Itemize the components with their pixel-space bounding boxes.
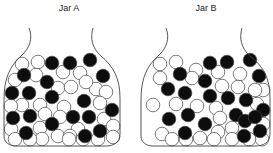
- jars-diagram: [0, 0, 273, 153]
- white-ball: [93, 96, 107, 110]
- black-ball: [63, 56, 77, 70]
- white-ball: [64, 80, 78, 94]
- black-ball: [5, 86, 19, 100]
- white-ball: [233, 67, 247, 81]
- black-ball: [237, 129, 251, 143]
- jar-a-balls: [4, 53, 120, 146]
- white-ball: [165, 132, 179, 146]
- black-ball: [198, 74, 212, 88]
- black-ball: [19, 126, 33, 140]
- white-ball: [31, 55, 45, 69]
- black-ball: [221, 91, 235, 105]
- black-ball: [22, 86, 36, 100]
- white-ball: [4, 99, 18, 113]
- black-ball: [248, 110, 262, 124]
- white-ball: [169, 97, 183, 111]
- jar-a: [4, 28, 120, 146]
- black-ball: [93, 124, 107, 138]
- white-ball: [215, 79, 229, 93]
- black-ball: [66, 110, 80, 124]
- black-ball: [178, 126, 192, 140]
- black-ball: [45, 56, 59, 70]
- white-ball: [146, 98, 160, 112]
- jar-b-balls: [146, 53, 270, 146]
- black-ball: [198, 117, 212, 131]
- black-ball: [161, 82, 175, 96]
- black-ball: [17, 68, 31, 82]
- black-ball: [178, 86, 192, 100]
- jar-b: [141, 28, 270, 146]
- black-ball: [203, 56, 217, 70]
- black-ball: [45, 117, 59, 131]
- white-ball: [35, 132, 49, 146]
- black-ball: [78, 129, 92, 143]
- white-ball: [225, 132, 239, 146]
- white-ball: [193, 131, 207, 145]
- white-ball: [62, 132, 76, 146]
- white-ball: [169, 55, 183, 69]
- white-ball: [213, 111, 227, 125]
- black-ball: [40, 75, 54, 89]
- black-ball: [96, 69, 110, 83]
- white-ball: [185, 71, 199, 85]
- white-ball: [79, 75, 93, 89]
- black-ball: [6, 111, 20, 125]
- black-ball: [220, 55, 234, 69]
- black-ball: [82, 110, 96, 124]
- white-ball: [207, 132, 221, 146]
- black-ball: [181, 108, 195, 122]
- black-ball: [77, 94, 91, 108]
- black-ball: [45, 90, 59, 104]
- black-ball: [203, 89, 217, 103]
- black-ball: [83, 53, 97, 67]
- black-ball: [23, 109, 37, 123]
- black-ball: [253, 124, 267, 138]
- white-ball: [231, 80, 245, 94]
- black-ball: [173, 67, 187, 81]
- black-ball: [105, 103, 119, 117]
- black-ball: [162, 112, 176, 126]
- black-ball: [239, 93, 253, 107]
